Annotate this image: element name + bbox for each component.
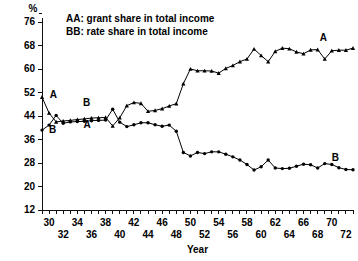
data-point [266, 158, 269, 161]
data-point [309, 163, 312, 166]
y-axis-tick-label: 36 [24, 134, 36, 145]
data-point [302, 162, 305, 165]
y-axis-tick-label: 28 [24, 157, 36, 168]
x-axis-tick-label: 30 [44, 217, 56, 228]
data-point [217, 150, 220, 153]
data-point [175, 130, 178, 133]
curve-annotation-A: A [320, 32, 327, 43]
data-point [182, 151, 185, 154]
data-point [188, 67, 192, 71]
y-axis-unit-label: % [29, 3, 38, 14]
legend-entry-BB: BB: rate share in total income [66, 26, 208, 37]
data-point [323, 162, 326, 165]
data-point [40, 128, 43, 131]
data-point [344, 168, 347, 171]
data-point [337, 166, 340, 169]
data-point [252, 47, 256, 51]
data-point [259, 165, 262, 168]
x-axis-tick-label: 70 [326, 217, 338, 228]
data-point [76, 120, 79, 123]
data-point [274, 166, 277, 169]
curve-annotation-A: A [84, 119, 91, 130]
series-line-AA [42, 48, 353, 126]
data-point [252, 168, 255, 171]
chart-container: 122028364452606876%303438424650545862667… [0, 0, 358, 261]
data-point [54, 114, 57, 117]
data-point [62, 122, 65, 125]
data-point [281, 167, 284, 170]
x-axis-tick-label: 46 [157, 217, 169, 228]
data-point [153, 123, 156, 126]
x-axis-tick-label: 60 [256, 229, 268, 240]
data-point [146, 121, 149, 124]
data-point [47, 111, 51, 115]
y-axis-tick-label: 52 [24, 87, 36, 98]
x-axis-tick-label: 66 [298, 217, 310, 228]
data-point [69, 120, 72, 123]
x-axis-tick-label: 68 [312, 229, 324, 240]
data-point [97, 119, 100, 122]
curve-annotation-B: B [49, 124, 56, 135]
data-point [168, 123, 171, 126]
data-point [295, 165, 298, 168]
x-axis-tick-label: 72 [340, 229, 352, 240]
y-axis-tick-label: 12 [24, 204, 36, 215]
data-point [224, 152, 227, 155]
data-point [351, 46, 355, 50]
y-axis-tick-label: 20 [24, 181, 36, 192]
x-axis-tick-label: 62 [270, 217, 282, 228]
x-axis-tick-label: 58 [241, 217, 253, 228]
curve-annotation-A: A [50, 89, 57, 100]
x-axis-tick-label: 54 [213, 217, 225, 228]
data-point [189, 154, 192, 157]
data-point [288, 167, 291, 170]
data-point [245, 163, 248, 166]
data-point [139, 121, 142, 124]
curve-annotation-B: B [332, 152, 339, 163]
x-axis-tick-label: 56 [227, 229, 239, 240]
data-point [104, 118, 107, 121]
x-axis-tick-label: 50 [185, 217, 197, 228]
data-point [238, 158, 241, 161]
x-axis-tick-label: 32 [58, 229, 70, 240]
x-axis-tick-label: 34 [72, 217, 84, 228]
data-point [231, 63, 235, 67]
data-point [351, 168, 354, 171]
x-axis-tick-label: 40 [114, 229, 126, 240]
data-point [118, 120, 121, 123]
y-axis-tick-label: 60 [24, 63, 36, 74]
y-axis-tick-label: 68 [24, 40, 36, 51]
x-axis-tick-label: 44 [142, 229, 154, 240]
x-axis-tick-label: 36 [86, 229, 98, 240]
data-point [174, 102, 178, 106]
data-point [125, 125, 128, 128]
data-point [210, 150, 213, 153]
legend-entry-AA: AA: grant share in total income [66, 13, 215, 24]
x-axis-tick-label: 42 [128, 217, 140, 228]
x-axis-tick-label: 48 [171, 229, 183, 240]
data-point [316, 166, 319, 169]
data-point [181, 82, 185, 86]
x-axis-title: Year [187, 244, 208, 255]
data-point [160, 125, 163, 128]
data-point [196, 151, 199, 154]
data-point [40, 95, 44, 99]
x-axis-tick-label: 64 [284, 229, 296, 240]
data-point [203, 152, 206, 155]
x-axis-tick-label: 52 [199, 229, 211, 240]
data-point [231, 155, 234, 158]
y-axis-tick-label: 44 [24, 110, 36, 121]
data-point [132, 123, 135, 126]
x-axis-tick-label: 38 [100, 217, 112, 228]
curve-annotation-B: B [83, 97, 90, 108]
data-point [111, 108, 114, 111]
data-point [330, 163, 333, 166]
y-axis-tick-label: 76 [24, 16, 36, 27]
line-chart: 122028364452606876%303438424650545862667… [0, 0, 358, 261]
